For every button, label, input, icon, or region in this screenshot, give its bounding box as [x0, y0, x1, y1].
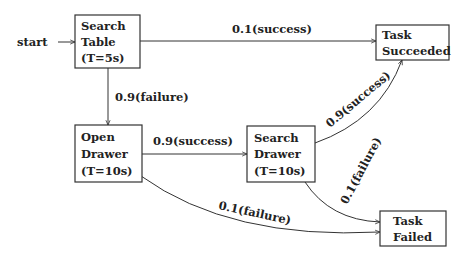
svg-text:Drawer: Drawer: [81, 147, 129, 161]
svg-text:Search: Search: [254, 131, 299, 145]
svg-text:(T=10s): (T=10s): [81, 164, 133, 178]
edge-search-drawer-to-task-failed: 0.1(failure): [305, 135, 384, 222]
svg-text:Table: Table: [81, 35, 116, 49]
state-diagram: start 0.1(success) 0.9(failure) 0.9(succ…: [0, 0, 465, 259]
edge-search-table-to-task-succeeded: 0.1(success): [140, 22, 376, 41]
edge-label: 0.1(failure): [217, 198, 292, 227]
node-task-succeeded: Task Succeeded: [376, 25, 451, 60]
svg-text:Open: Open: [81, 130, 115, 144]
svg-text:(T=5s): (T=5s): [81, 51, 125, 65]
edge-open-drawer-to-search-drawer: 0.9(success): [142, 134, 247, 154]
node-task-failed: Task Failed: [380, 211, 446, 246]
svg-text:Search: Search: [81, 19, 126, 33]
node-search-table: Search Table (T=5s): [75, 15, 140, 68]
edge-label: 0.9(success): [323, 68, 393, 130]
edge-search-drawer-to-task-succeeded: 0.9(success): [315, 60, 402, 143]
edge-label: 0.9(failure): [115, 90, 189, 104]
edge-label: 0.1(success): [232, 22, 312, 36]
node-open-drawer: Open Drawer (T=10s): [75, 125, 142, 182]
svg-text:Succeeded: Succeeded: [382, 44, 451, 58]
svg-text:Failed: Failed: [393, 230, 432, 244]
svg-text:Drawer: Drawer: [254, 147, 302, 161]
edge-label: 0.9(success): [153, 134, 233, 148]
edge-search-table-to-open-drawer: 0.9(failure): [108, 68, 189, 125]
svg-text:Task: Task: [393, 214, 423, 228]
svg-text:Task: Task: [382, 28, 412, 42]
edge-label: 0.1(failure): [337, 135, 384, 207]
node-search-drawer: Search Drawer (T=10s): [247, 126, 315, 182]
svg-text:(T=10s): (T=10s): [254, 164, 306, 178]
start-label: start: [17, 35, 48, 49]
